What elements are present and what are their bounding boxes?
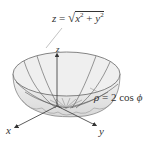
y-axis-label: y (99, 126, 104, 137)
cone-y-exponent: 2 (100, 11, 104, 19)
sphere-rhs: = 2 cos (99, 91, 136, 103)
z-axis-label: z (56, 45, 60, 54)
x-axis-label: x (6, 125, 11, 136)
cone-sphere-diagram: z = √x2 + y2 ρ = 2 cos ϕ x y z (0, 0, 154, 148)
cone-equals: = (56, 12, 68, 24)
cone-equation-label: z = √x2 + y2 (52, 11, 104, 24)
sphere-equation-label: ρ = 2 cos ϕ (94, 92, 142, 103)
cone-radicand: x2 + y2 (75, 11, 104, 24)
cone-plus: + (84, 12, 96, 24)
sphere-phi: ϕ (137, 91, 143, 103)
